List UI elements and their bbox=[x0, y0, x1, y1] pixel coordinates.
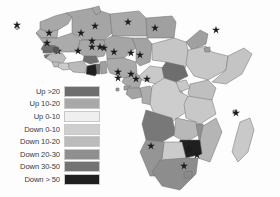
legend-swatch bbox=[64, 98, 100, 109]
map-region bbox=[40, 13, 72, 32]
map-region bbox=[204, 47, 210, 52]
map-region bbox=[184, 96, 216, 124]
map-region bbox=[96, 64, 100, 74]
legend-row: Down 0-10 bbox=[12, 123, 100, 136]
legend-label: Up >20 bbox=[36, 87, 64, 96]
map-region bbox=[68, 61, 87, 73]
map-legend: Up >20Up 10-20Up 0-10Down 0-10Down 10-20… bbox=[12, 85, 100, 186]
legend-row: Down 30-50 bbox=[12, 161, 100, 174]
map-figure: Up >20Up 10-20Up 0-10Down 0-10Down 10-20… bbox=[0, 0, 280, 197]
legend-row: Down 20-30 bbox=[12, 148, 100, 161]
legend-swatch bbox=[64, 86, 100, 97]
legend-label: Down > 50 bbox=[24, 175, 64, 184]
legend-label: Down 0-10 bbox=[24, 125, 64, 134]
map-region bbox=[100, 61, 107, 74]
map-region bbox=[43, 50, 52, 53]
legend-swatch bbox=[64, 124, 100, 135]
legend-row: Down 10-20 bbox=[12, 135, 100, 148]
legend-label: Down 20-30 bbox=[20, 150, 64, 159]
map-region bbox=[126, 88, 142, 99]
legend-label: Up 0-10 bbox=[34, 112, 64, 121]
legend-swatch bbox=[64, 136, 100, 147]
legend-swatch bbox=[64, 111, 100, 122]
star-marker-icon bbox=[212, 26, 220, 34]
legend-row: Up 0-10 bbox=[12, 110, 100, 123]
legend-swatch bbox=[64, 149, 100, 160]
map-region bbox=[116, 88, 119, 91]
legend-label: Down 10-20 bbox=[20, 137, 64, 146]
map-region bbox=[104, 36, 136, 59]
legend-row: Down > 50 bbox=[12, 173, 100, 186]
map-region bbox=[83, 56, 99, 64]
legend-swatch bbox=[64, 174, 100, 185]
circle-marker-icon bbox=[53, 47, 60, 54]
map-region bbox=[232, 118, 254, 162]
map-region bbox=[146, 16, 176, 38]
legend-row: Up >20 bbox=[12, 85, 100, 98]
legend-label: Up 10-20 bbox=[30, 99, 64, 108]
map-region bbox=[184, 171, 192, 178]
legend-swatch bbox=[64, 161, 100, 172]
legend-row: Up 10-20 bbox=[12, 98, 100, 111]
legend-label: Down 30-50 bbox=[20, 162, 64, 171]
